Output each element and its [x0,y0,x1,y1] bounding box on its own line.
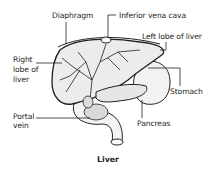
label-right-lobe-1: Right [13,55,33,64]
label-stomach: Stomach [170,87,203,96]
label-portal-vein-1: Portal [13,112,34,121]
label-portal-vein-2: vein [13,121,29,130]
liver-illustration [0,0,209,170]
diagram-caption: Liver [97,155,119,164]
label-pancreas: Pancreas [137,119,170,128]
inferior-vena-cava-shape [101,37,111,43]
label-left-lobe: Left lobe of liver [142,32,202,41]
label-right-lobe-2: lobe of [13,65,38,74]
label-inferior-vena-cava: Inferior vena cava [119,11,186,20]
label-right-lobe-3: liver [13,75,29,84]
label-diaphragm: Diaphragm [52,11,93,20]
